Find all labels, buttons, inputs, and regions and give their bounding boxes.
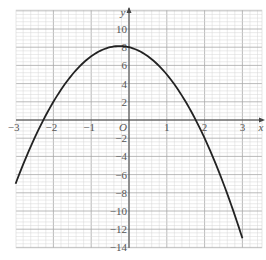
svg-text:2: 2 (122, 96, 128, 108)
svg-text:4: 4 (122, 78, 128, 90)
svg-text:−14: −14 (110, 241, 128, 253)
svg-text:−2: −2 (46, 121, 58, 133)
svg-text:−2: −2 (115, 132, 127, 144)
svg-text:3: 3 (240, 121, 246, 133)
svg-text:2: 2 (202, 121, 208, 133)
svg-text:−8: −8 (115, 187, 127, 199)
svg-text:−1: −1 (83, 121, 95, 133)
svg-text:y: y (120, 6, 126, 18)
svg-text:−6: −6 (115, 169, 127, 181)
svg-text:1: 1 (164, 121, 170, 133)
svg-text:−12: −12 (110, 223, 127, 235)
svg-text:−4: −4 (115, 150, 127, 162)
svg-text:−3: −3 (8, 121, 20, 133)
svg-text:6: 6 (122, 59, 128, 71)
svg-text:x: x (258, 121, 264, 133)
svg-text:−10: −10 (110, 205, 128, 217)
tick-labels: −3−2−1123108642−2−4−6−8−10−12−14Oxy (8, 6, 264, 253)
svg-text:10: 10 (116, 23, 128, 35)
svg-text:O: O (119, 121, 127, 133)
graph: −3−2−1123108642−2−4−6−8−10−12−14Oxy (0, 0, 266, 260)
